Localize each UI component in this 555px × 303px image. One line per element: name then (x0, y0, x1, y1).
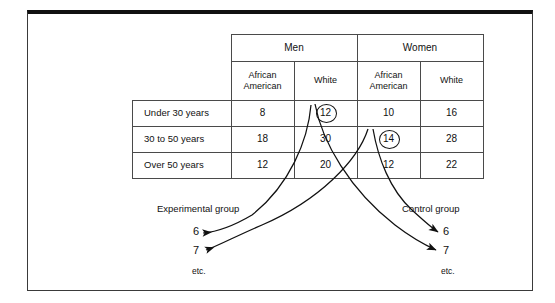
table-cell-r1c2: 14 (357, 126, 420, 152)
sub-header-line2: American (243, 81, 281, 92)
experimental-destination-7: 7 (193, 244, 199, 256)
control-destination-6: 6 (443, 225, 449, 237)
sub-header-men-white: White (294, 61, 357, 100)
table-cell-r0c0: 8 (231, 100, 294, 126)
row-label-30-to-50: 30 to 50 years (132, 126, 231, 152)
table-cell-r2c0: 12 (231, 152, 294, 178)
table-cell-r0c1: 12 (294, 100, 357, 126)
table-cell-r2c2: 12 (357, 152, 420, 178)
figure-frame: Men Women African American White African… (27, 10, 533, 291)
table-cell-r1c0: 18 (231, 126, 294, 152)
group-header-women: Women (357, 34, 483, 61)
group-header-men: Men (231, 34, 357, 61)
control-group-label: Control group (402, 203, 460, 214)
sub-header-men-african-american: African American (231, 61, 294, 100)
table-cell-r1c1: 30 (294, 126, 357, 152)
experimental-etc-label: etc. (192, 266, 206, 276)
table-cell-r0c2: 10 (357, 100, 420, 126)
experimental-destination-6: 6 (193, 225, 199, 237)
experimental-group-label: Experimental group (157, 203, 239, 214)
control-etc-label: etc. (441, 266, 455, 276)
table-cell-r1c3: 28 (420, 126, 483, 152)
sub-header-line2: American (369, 81, 407, 92)
row-label-under-30: Under 30 years (132, 100, 231, 126)
sub-header-women-african-american: African American (357, 61, 420, 100)
table-gridline-v5 (483, 34, 484, 178)
sub-header-line1: African (374, 70, 402, 81)
control-destination-7: 7 (443, 244, 449, 256)
table-cell-r2c1: 20 (294, 152, 357, 178)
table-cell-r0c3: 16 (420, 100, 483, 126)
table-gridline-h5 (132, 178, 484, 179)
sub-header-line1: African (248, 70, 276, 81)
table-cell-r2c3: 22 (420, 152, 483, 178)
sub-header-women-white: White (420, 61, 483, 100)
row-label-over-50: Over 50 years (132, 152, 231, 178)
crosstab-table: Men Women African American White African… (132, 34, 484, 178)
